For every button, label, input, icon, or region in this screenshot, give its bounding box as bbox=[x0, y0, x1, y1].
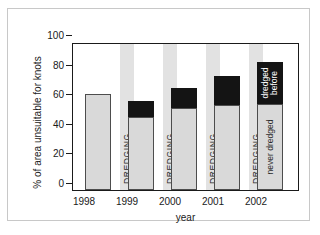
y-tick-label-100: 100 bbox=[38, 30, 64, 41]
bar-segment-dredged-before: dredgedbefore bbox=[257, 62, 283, 104]
x-axis-label: year bbox=[72, 212, 299, 223]
bar-segment-dredged-before bbox=[171, 88, 197, 108]
figure-canvas: 100 80 60 40 20 0 % of area unsuitable f… bbox=[0, 0, 320, 235]
never-dredged-label: never dredged bbox=[266, 120, 275, 175]
x-tick-label-2000: 2000 bbox=[150, 196, 190, 207]
figure-frame: 100 80 60 40 20 0 % of area unsuitable f… bbox=[7, 8, 310, 221]
bar-segment-never-dredged bbox=[128, 117, 154, 190]
plot-area: DREDGING DREDGING DREDGING DREDGING bbox=[72, 43, 299, 191]
bar-segment-never-dredged: never dredged bbox=[257, 104, 283, 190]
bar-segment-dredged-before bbox=[128, 101, 154, 117]
y-axis-label: % of area unsuitable for knots bbox=[32, 48, 43, 198]
dredged-before-line2: before bbox=[269, 71, 279, 95]
y-tick-mark-100 bbox=[66, 35, 72, 36]
x-tick-label-2002: 2002 bbox=[236, 196, 276, 207]
x-tick-label-1999: 1999 bbox=[107, 196, 147, 207]
bar-segment-never-dredged bbox=[214, 105, 240, 190]
x-tick-label-1998: 1998 bbox=[64, 196, 104, 207]
bar-segment-never-dredged bbox=[85, 94, 111, 190]
dredged-before-label: dredgedbefore bbox=[261, 67, 279, 98]
bar-segment-dredged-before bbox=[214, 76, 240, 105]
bar-segment-never-dredged bbox=[171, 108, 197, 190]
x-tick-label-2001: 2001 bbox=[193, 196, 233, 207]
